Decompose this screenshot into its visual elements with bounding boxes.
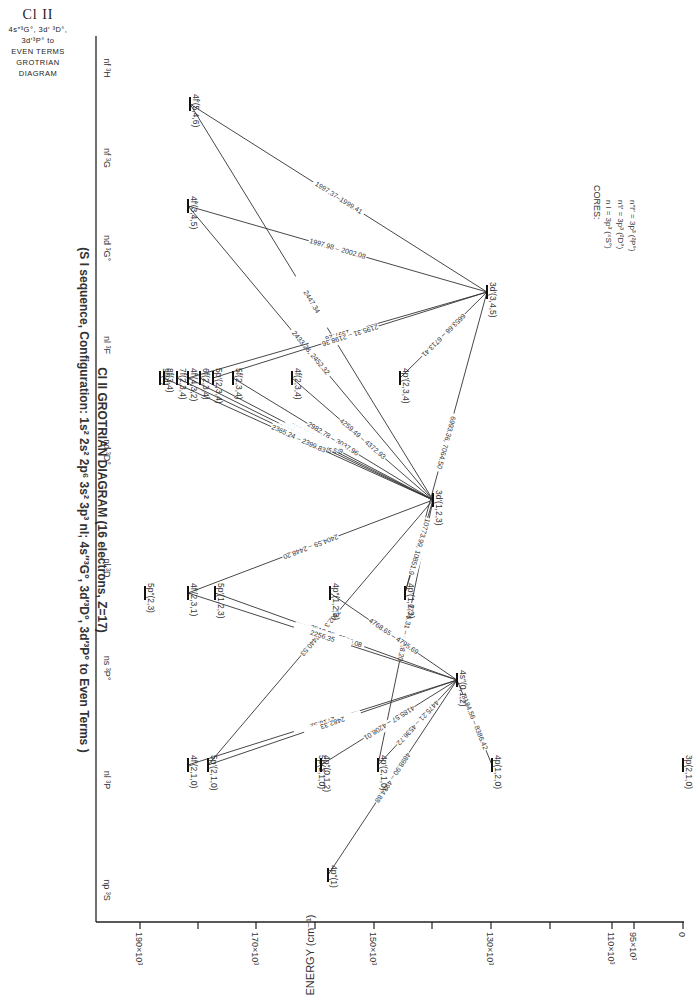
energy-level-label: 4f(2,3,4): [293, 368, 303, 400]
energy-level-label: 4p′(2,1,0): [379, 755, 389, 791]
energy-level-label: 7f(2,3,4): [178, 368, 188, 400]
diagram-canvas: Cl II GROTRIAN DIAGRAM (16 electrons, Z=…: [0, 0, 694, 998]
energy-level-label: 3d′(1,2,3): [434, 490, 444, 526]
energy-level-label: 4p″(1,2,3): [331, 583, 341, 620]
axis-tick-label: 170×10³: [250, 932, 260, 965]
cores-line-3: n″l″ = 3p³ (²P°): [628, 200, 637, 252]
axis-tick-label: 150×10³: [368, 932, 378, 965]
cores-heading: CORES:: [592, 185, 602, 220]
term-column-label: nl ³F: [102, 336, 112, 355]
transition-wavelength-label: 1997.37–1999.41: [314, 180, 364, 215]
transition-wavelength-label: 6653.68 – 6713.41: [421, 312, 468, 358]
cores-line-2: n′l′ = 3p³ (²D°): [616, 200, 625, 249]
term-column-label: nl ³D: [102, 558, 112, 578]
energy-level-label: 4p′(1,2,3): [406, 583, 416, 619]
energy-level-label: 4p″(0,1,2): [322, 755, 332, 792]
energy-level-label: 6f(2,3,4): [201, 368, 211, 400]
energy-level-label: 4p′(2,3,4): [401, 368, 411, 404]
energy-level-label: 4f′(2,1,0): [189, 755, 199, 788]
energy-level-label: 4f′(5,4,6): [191, 94, 201, 127]
energy-level-label: 4p(1,2,0): [493, 755, 503, 789]
term-column-label: nf ³H: [102, 58, 112, 78]
energy-level-label: 5f(2,3,4): [234, 368, 244, 400]
axis-tick-label: 110×10³: [606, 932, 616, 965]
energy-level-label: 5p″(2,3): [146, 583, 156, 613]
axis-tick-label: 95×10³: [628, 932, 638, 960]
diagram-subtitle: (S I sequence, Configuration: 1s² 2s² 2p…: [77, 247, 91, 752]
energy-level-label: 5p′(1,2,3): [216, 583, 226, 619]
grotrian-diagram: Cl II 4s″³G°, 3d′ ³D°, 3d′³P° to EVEN TE…: [0, 0, 694, 998]
energy-axis-ticks: 190×10³170×10³150×10³130×10³110×10³95×10…: [134, 922, 687, 965]
energy-level-label: 5p′(2,1,0): [209, 755, 219, 791]
energy-level-label: 8f(3,4): [165, 368, 175, 393]
term-column-label: ns ³P°: [102, 656, 112, 681]
energy-level-label: 4s″(0,1,2): [458, 670, 468, 707]
term-column-label: nd ³D°: [102, 439, 112, 465]
energy-level-label: 4f′(3,4,5): [189, 196, 199, 229]
transition-wavelength-label: 2404.59 – 2448.20: [282, 533, 339, 560]
axis-tick-label: 0: [677, 932, 687, 937]
energy-level-label: 5p′(2,3,4): [214, 368, 224, 404]
energy-axis-label: ENERGY (cm⁻¹): [304, 915, 316, 996]
diagram-title: Cl II GROTRIAN DIAGRAM (16 electrons, Z=…: [95, 367, 109, 633]
cores-line-1: n l = 3p³ (⁴S°): [604, 200, 613, 249]
term-column-label: nf ³G: [102, 148, 112, 168]
energy-level-label: 3d′(3,4,5): [488, 282, 498, 318]
term-column-label: nd ³G°: [102, 235, 112, 262]
energy-level-label: 3p(2,1,0): [684, 755, 694, 789]
axis-tick-label: 190×10³: [134, 932, 144, 965]
cores-legend: CORES: n l = 3p³ (⁴S°) n′l′ = 3p³ (²D°) …: [592, 185, 637, 252]
energy-level-label: 4f′(2,3,1): [189, 583, 199, 616]
energy-level-label: 4f′(4,3,2): [189, 368, 199, 401]
transition-wavelength-label: 1997.98 – 2002.08: [309, 237, 367, 260]
energy-level-label: 4p″(1): [329, 865, 339, 888]
axis-tick-label: 130×10³: [485, 932, 495, 965]
term-column-label: np ³S: [102, 879, 112, 901]
term-column-label: nl ³P: [102, 771, 112, 790]
